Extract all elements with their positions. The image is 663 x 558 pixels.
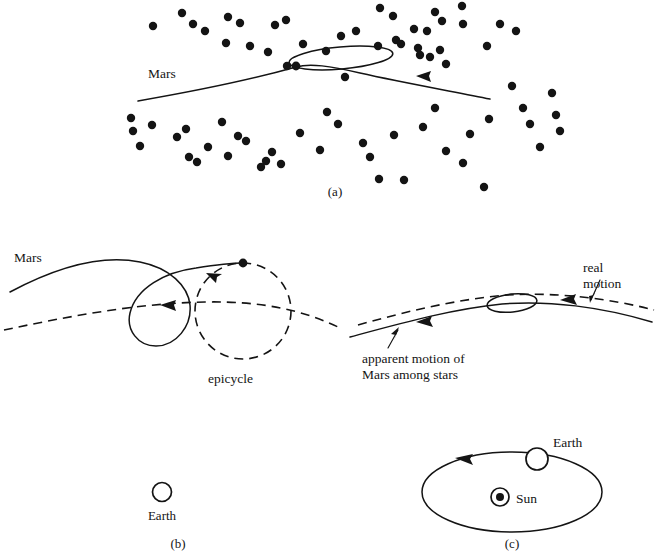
star-dot [222,39,230,47]
starfield [127,2,564,191]
star-dot [262,157,270,165]
star-dot [201,27,209,35]
star-dot [423,27,431,35]
star-dot [431,8,439,16]
star-dot [149,22,157,30]
star-dot [410,25,418,33]
star-dot [552,111,560,119]
star-dot [442,147,450,155]
star-dot [512,27,520,35]
figure-root: Mars (a) Mars epicycle Earth (b) [0,0,663,558]
earth-orbit-ellipse [422,452,602,532]
star-dot [442,60,450,68]
star-dot [436,46,444,54]
star-dot [431,104,439,112]
panel-a-mars-label: Mars [148,66,176,81]
star-dot [419,123,427,131]
panel-b-caption: (b) [170,536,185,551]
star-dot [224,152,232,160]
star-dot [416,51,424,59]
star-dot [556,127,564,135]
star-dot [375,175,383,183]
star-dot [548,89,556,97]
panel-c: real motion apparent motion of Mars amon… [350,260,654,551]
mars-direction-arrow-a [416,71,431,82]
panel-c-earth-label: Earth [553,435,582,450]
apparent-motion-leader-arrow [391,327,399,341]
star-dot [426,53,434,61]
real-motion-path [358,294,654,325]
mars-dot-a [292,62,301,71]
star-dot [136,142,144,150]
real-motion-label-line1: real [583,260,603,275]
panel-c-caption: (c) [505,536,519,551]
star-dot [204,143,212,151]
star-dot [173,133,181,141]
star-dot [400,176,408,184]
star-dot [374,42,382,50]
star-dot [185,153,193,161]
star-dot [234,132,242,140]
apparent-motion-label-line2: Mars among stars [362,367,458,382]
star-dot [299,40,307,48]
star-dot [458,2,466,10]
star-dot [236,19,244,27]
star-dot [127,114,135,122]
earth-symbol-b [153,483,172,502]
star-dot [508,82,516,90]
earth-symbol-c [526,448,548,470]
apparent-motion-label-line1: apparent motion of [362,351,465,366]
star-dot [366,153,374,161]
star-dot [359,139,367,147]
star-dot [334,120,342,128]
mars-apparent-path-a [138,65,490,101]
star-dot [390,131,398,139]
star-dot [242,137,250,145]
star-dot [193,158,201,166]
star-dot [178,9,186,17]
star-dot [485,115,493,123]
star-dot [352,27,360,35]
sun-symbol-dot-icon [496,493,504,501]
panel-c-sun-label: Sun [516,491,537,506]
star-dot [459,20,467,28]
star-dot [483,42,491,50]
star-dot [268,148,276,156]
star-dot [224,13,232,21]
star-dot [246,42,254,50]
mars-dot-b [239,259,248,268]
star-dot [519,104,527,112]
panel-b-earth-label: Earth [148,508,177,523]
panel-b: Mars epicycle Earth (b) [4,250,338,551]
star-dot [466,130,474,138]
astronomy-figure: Mars (a) Mars epicycle Earth (b) [0,0,663,558]
panel-a-caption: (a) [328,184,342,199]
panel-b-mars-label: Mars [14,250,42,265]
star-dot [526,120,534,128]
star-dot [397,40,405,48]
epicycle-label: epicycle [208,371,253,386]
panel-a: Mars (a) [127,2,564,199]
star-dot [189,20,197,28]
star-dot [496,20,504,28]
star-dot [459,159,467,167]
star-dot [129,127,137,135]
star-dot [389,12,397,20]
star-dot [264,48,272,56]
star-dot [376,4,384,12]
star-dot [271,21,279,29]
star-dot [182,125,190,133]
mars-loop-path-b [10,260,243,346]
star-dot [148,121,156,129]
epicycle-circle [195,263,291,359]
star-dot [316,146,324,154]
star-dot [337,32,345,40]
star-dot [536,143,544,151]
star-dot [341,73,349,81]
star-dot [438,17,446,25]
star-dot [323,108,331,116]
star-dot [480,183,488,191]
star-dot [296,129,304,137]
real-motion-label-line2: motion [583,276,622,291]
retrograde-direction-arrow-b [160,300,176,311]
